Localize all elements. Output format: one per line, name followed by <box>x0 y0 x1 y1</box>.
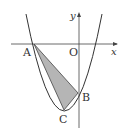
point-b-label: B <box>82 91 90 104</box>
point-c-label: C <box>59 113 67 126</box>
point-a-label: A <box>22 46 32 59</box>
y-axis-arrow-icon <box>77 12 81 17</box>
x-axis-label: x <box>111 46 117 57</box>
origin-label: O <box>69 46 78 59</box>
y-axis-label: y <box>69 10 76 21</box>
parabola-diagram: A O x y B C <box>0 0 129 133</box>
